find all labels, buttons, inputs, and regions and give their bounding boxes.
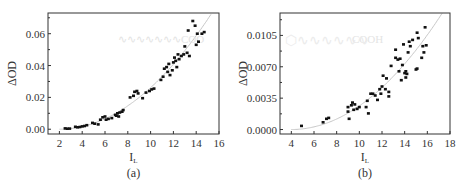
data-point xyxy=(145,91,148,94)
data-point xyxy=(379,92,382,95)
data-point xyxy=(416,67,419,70)
data-point xyxy=(348,118,351,121)
data-point xyxy=(404,70,407,73)
data-point xyxy=(104,115,107,118)
x-tick-label: 14 xyxy=(191,137,203,149)
data-point xyxy=(409,45,412,48)
figure: ∿∿∿∿∿∿∿COO2468101214160.000.020.040.06IL… xyxy=(0,0,462,187)
plot-frame xyxy=(48,13,219,134)
y-axis-label: ΔOD xyxy=(236,61,250,86)
data-point xyxy=(408,40,411,43)
data-point xyxy=(417,37,420,40)
panel-label: (b) xyxy=(358,166,372,180)
x-axis-label: IL xyxy=(361,150,369,165)
data-point xyxy=(153,87,156,90)
x-tick-label: 10 xyxy=(354,137,366,149)
y-tick-label: 0.04 xyxy=(26,60,46,72)
data-point xyxy=(365,106,368,109)
chart-panel-b: COOH⬡∿∿∿∿∿∿46810121416180.00000.00350.00… xyxy=(236,13,456,180)
x-tick-label: 16 xyxy=(214,137,226,149)
y-tick-label: 0.0000 xyxy=(247,124,278,136)
data-point xyxy=(110,117,113,120)
x-axis-label: IL xyxy=(129,150,137,165)
data-point xyxy=(390,65,393,68)
data-point xyxy=(384,88,387,91)
data-point xyxy=(135,90,138,93)
x-tick-label: 14 xyxy=(399,137,411,149)
data-point xyxy=(327,117,330,120)
data-point xyxy=(401,64,404,67)
data-point xyxy=(366,100,369,103)
x-tick-label: 16 xyxy=(422,137,434,149)
data-point xyxy=(416,31,419,34)
data-point xyxy=(367,112,370,115)
x-tick-label: 12 xyxy=(168,137,179,149)
data-point xyxy=(404,76,407,79)
data-point xyxy=(166,71,169,74)
data-point xyxy=(191,20,194,23)
data-point xyxy=(85,124,88,127)
y-tick-label: 0.0070 xyxy=(247,61,278,73)
data-point xyxy=(162,75,165,78)
data-point xyxy=(167,63,170,66)
data-point xyxy=(322,121,325,124)
data-point xyxy=(421,45,424,48)
data-point xyxy=(187,29,190,32)
y-tick-label: 0.06 xyxy=(26,28,46,40)
data-point xyxy=(122,109,125,112)
data-point xyxy=(169,74,172,77)
chart-panel-a: ∿∿∿∿∿∿∿COO2468101214160.000.020.040.06IL… xyxy=(5,13,225,180)
data-point xyxy=(197,40,200,43)
data-point xyxy=(97,123,100,126)
data-point xyxy=(129,96,132,99)
data-point xyxy=(424,26,427,29)
x-tick-label: 2 xyxy=(57,137,63,149)
data-point xyxy=(398,70,401,73)
data-point xyxy=(174,60,177,63)
data-point xyxy=(358,106,361,109)
data-point xyxy=(196,32,199,35)
data-point xyxy=(68,127,71,130)
data-point xyxy=(405,73,408,76)
y-axis-label: ΔOD xyxy=(5,61,19,86)
molecule-watermark: ∿∿∿∿∿∿∿COO xyxy=(118,33,204,45)
data-point xyxy=(203,31,206,34)
fit-curve xyxy=(291,13,442,129)
x-tick-label: 18 xyxy=(445,137,457,149)
data-point xyxy=(411,39,414,42)
data-point xyxy=(186,52,189,55)
data-point xyxy=(117,115,120,118)
data-point xyxy=(93,122,96,125)
data-point xyxy=(175,66,178,69)
y-tick-label: 0.02 xyxy=(26,91,45,103)
data-point xyxy=(350,104,353,107)
data-point xyxy=(107,118,110,121)
data-point xyxy=(347,110,350,113)
data-point xyxy=(387,95,390,98)
data-point xyxy=(399,57,402,60)
data-point xyxy=(394,48,397,51)
data-point xyxy=(183,45,186,48)
plot-frame xyxy=(280,13,450,134)
data-point xyxy=(178,58,181,61)
panel-label: (a) xyxy=(127,166,140,180)
data-point xyxy=(177,53,180,56)
data-point xyxy=(378,88,381,91)
data-point xyxy=(347,106,350,109)
y-tick-label: 0.0035 xyxy=(247,92,278,104)
data-point xyxy=(195,44,198,47)
data-point xyxy=(381,85,384,88)
data-point xyxy=(188,55,191,58)
data-point xyxy=(400,79,403,82)
x-tick-label: 8 xyxy=(334,137,340,149)
x-tick-label: 6 xyxy=(102,137,108,149)
data-point xyxy=(165,66,168,69)
data-point xyxy=(376,99,379,102)
y-tick-label: 0.0105 xyxy=(247,29,278,41)
data-point xyxy=(374,94,377,97)
data-point xyxy=(407,51,410,54)
data-point xyxy=(137,92,140,95)
data-point xyxy=(171,69,174,72)
ring-watermark: ⬡∿∿∿∿∿∿ xyxy=(285,33,369,48)
data-point xyxy=(352,109,355,112)
